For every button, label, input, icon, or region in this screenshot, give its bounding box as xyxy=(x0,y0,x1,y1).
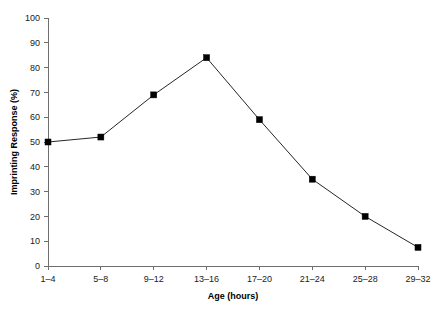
data-point-marker[interactable] xyxy=(415,244,421,250)
y-tick-label: 70 xyxy=(30,88,40,98)
data-point-marker[interactable] xyxy=(256,117,262,123)
y-tick-label: 80 xyxy=(30,63,40,73)
y-tick-label: 50 xyxy=(30,137,40,147)
y-tick-label: 30 xyxy=(30,187,40,197)
x-tick-label: 17–20 xyxy=(247,274,272,284)
y-axis-title: Imprinting Response (%) xyxy=(9,89,19,195)
y-tick-label: 90 xyxy=(30,38,40,48)
data-point-marker[interactable] xyxy=(309,176,315,182)
x-tick-label: 21–24 xyxy=(300,274,325,284)
y-tick-label: 60 xyxy=(30,112,40,122)
x-axis-title: Age (hours) xyxy=(208,291,259,301)
y-tick-label: 40 xyxy=(30,162,40,172)
chart-figure: 01020304050607080901001–45–89–1213–1617–… xyxy=(0,0,443,313)
x-tick-label: 9–12 xyxy=(144,274,164,284)
y-tick-label: 10 xyxy=(30,236,40,246)
line-chart: 01020304050607080901001–45–89–1213–1617–… xyxy=(0,0,443,313)
y-tick-label: 0 xyxy=(35,261,40,271)
x-tick-label: 5–8 xyxy=(93,274,108,284)
data-point-marker[interactable] xyxy=(98,134,104,140)
y-tick-label: 20 xyxy=(30,212,40,222)
data-point-marker[interactable] xyxy=(45,139,51,145)
x-tick-label: 13–16 xyxy=(194,274,219,284)
data-point-marker[interactable] xyxy=(362,213,368,219)
y-tick-label: 100 xyxy=(25,13,40,23)
data-point-marker[interactable] xyxy=(151,92,157,98)
data-point-marker[interactable] xyxy=(204,55,210,61)
x-tick-label: 25–28 xyxy=(353,274,378,284)
x-tick-label: 1–4 xyxy=(40,274,55,284)
x-tick-label: 29–32 xyxy=(405,274,430,284)
